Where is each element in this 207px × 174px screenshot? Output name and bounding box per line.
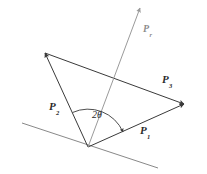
- vector-diagram-figure: P3 P2 P1 Pr 2θ: [0, 0, 207, 174]
- baseline-reference-line: [22, 123, 158, 168]
- vector-label-p3: P3: [162, 74, 172, 88]
- vector-label-resultant-subscript: r: [149, 31, 152, 38]
- vector-label-p1-base: P: [140, 124, 147, 136]
- vector-label-p2-subscript: 2: [56, 109, 59, 116]
- vector-resultant-arrow: [88, 8, 140, 147]
- vector-label-p2: P2: [49, 101, 59, 115]
- vector-p1-arrow: [88, 104, 184, 147]
- vector-label-p1: P1: [140, 125, 150, 139]
- angle-label-2theta: 2θ: [92, 110, 102, 120]
- vector-label-p3-base: P: [162, 73, 169, 85]
- vector-diagram-canvas: [0, 0, 207, 174]
- vector-label-resultant: Pr: [143, 24, 152, 37]
- vector-label-p1-subscript: 1: [147, 133, 150, 140]
- vector-label-p2-base: P: [49, 100, 56, 112]
- vector-label-p3-subscript: 3: [169, 82, 172, 89]
